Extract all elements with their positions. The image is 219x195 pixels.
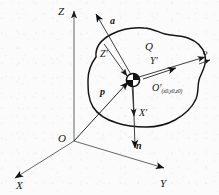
global-axes-group [15,11,164,178]
local-origin-label-group: O′(x0,y0,z0) [152,83,182,95]
vector-label-p: p [100,87,105,97]
vector-label-n: n [136,141,142,151]
axis-label-y: Y [160,178,166,189]
coordinate-system-figure: Z O X Y a n p Z′ Y′ X′ Q o O′(x0,y0,z0) [0,0,219,195]
boundary-point-label-o: o [203,48,208,57]
surface-region-label-q: Q [145,41,153,52]
axis-y-line [74,141,164,168]
local-axis-label-x: X′ [139,108,147,118]
axis-label-origin-o: O [58,133,66,144]
axis-label-z: Z [58,6,64,17]
local-axis-label-z: Z′ [100,49,108,59]
local-origin-coords: (x0,y0,z0) [161,88,182,94]
local-axis-label-y: Y′ [150,56,158,66]
axis-label-x: X [16,180,23,191]
axis-x-line [15,141,74,178]
local-origin-marker [126,73,139,86]
local-axis-y-arrow [143,68,176,79]
figure-line-art [0,0,219,195]
local-axis-y-line [139,57,205,77]
vector-label-a: a [110,16,115,26]
